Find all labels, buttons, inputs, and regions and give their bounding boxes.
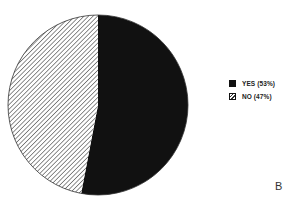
legend-item-no: NO (47%) <box>229 91 275 102</box>
panel-label: B <box>275 180 282 192</box>
solid-swatch-icon <box>229 80 236 87</box>
legend-item-yes: YES (53%) <box>229 78 275 89</box>
legend-label-no: NO (47%) <box>242 93 272 100</box>
legend-label-yes: YES (53%) <box>242 80 275 87</box>
hatched-swatch-icon <box>229 93 236 100</box>
legend: YES (53%) NO (47%) <box>229 78 275 104</box>
pie-slice-no <box>8 15 98 193</box>
pie-chart <box>0 0 200 203</box>
